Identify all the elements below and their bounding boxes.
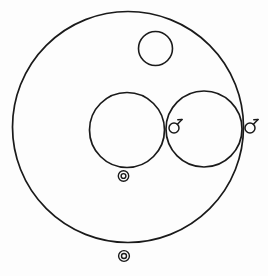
diagram-background: [0, 0, 268, 276]
circle-diagram-canvas: [0, 0, 268, 276]
diagram-root: [0, 0, 268, 276]
